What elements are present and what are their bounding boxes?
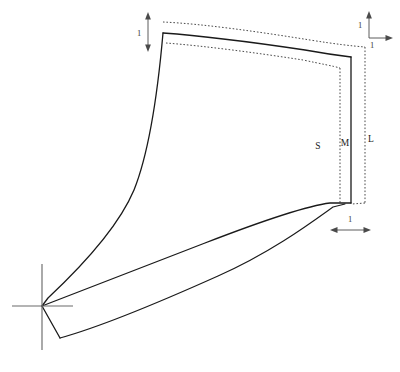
size-line-L — [163, 22, 365, 204]
small-size-top-curve — [166, 43, 340, 68]
dimension-label-corner-vertical: 1 — [358, 20, 362, 30]
arrow-head-right-icon — [386, 35, 394, 41]
arrow-head-right-icon — [364, 227, 372, 233]
arrow-head-down-icon — [145, 45, 151, 53]
dimension-top-right-corner-axis: 1 1 — [358, 11, 393, 50]
arrow-head-up-icon — [145, 12, 151, 20]
medium-size-hem-lower-curve — [60, 204, 345, 338]
dimension-bottom-right-horizontal: 1 — [330, 214, 371, 233]
size-label-M: M — [341, 138, 350, 148]
medium-size-origin-notch — [42, 306, 60, 338]
size-label-L: L — [368, 134, 374, 144]
size-line-S — [166, 43, 340, 203]
medium-size-hem-upper-curve — [42, 203, 351, 306]
dimension-label-top-left: 1 — [137, 28, 141, 38]
dimension-top-left-vertical: 1 — [137, 12, 151, 52]
dimension-label-corner-horizontal: 1 — [370, 40, 374, 50]
arrow-head-up-icon — [366, 11, 372, 19]
large-size-bottom-tick — [352, 203, 365, 204]
dimension-label-bottom-right: 1 — [348, 214, 352, 224]
diagram-canvas: 1 1 1 1 S M L — [0, 0, 400, 372]
technical-drawing-svg: 1 1 1 1 S M L — [0, 0, 400, 372]
large-size-top-curve — [163, 22, 365, 47]
size-line-M — [42, 33, 351, 338]
medium-size-left-curve — [42, 33, 163, 306]
size-label-S: S — [315, 141, 320, 151]
arrow-head-left-icon — [330, 227, 338, 233]
